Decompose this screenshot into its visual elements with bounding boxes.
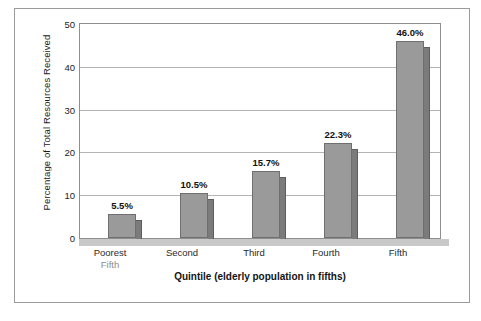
y-tick-label-20: 20 — [64, 147, 75, 158]
bar-side-fifth — [424, 47, 430, 244]
category-label-fifth: Fifth — [367, 247, 429, 258]
bar-face-second — [180, 193, 208, 238]
category-label-line1-fifth: Fifth — [389, 247, 407, 258]
y-tick-label-30: 30 — [64, 104, 75, 115]
gridline-40 — [80, 67, 440, 68]
bar-side-third — [280, 177, 286, 244]
category-label-line1-poorest: Poorest — [94, 247, 127, 258]
bar-value-fifth: 46.0% — [397, 27, 424, 38]
bar-value-poorest-fifth: 5.5% — [111, 200, 133, 211]
category-label-poorest-fifth: Poorest Fifth — [79, 247, 141, 270]
bar-side-second — [208, 199, 214, 244]
bar-value-second: 10.5% — [181, 179, 208, 190]
bar-side-fourth — [352, 149, 358, 244]
plot-area: 0 10 20 30 40 50 5.5% — [79, 23, 441, 239]
category-label-second: Second — [151, 247, 213, 258]
category-label-line1-second: Second — [166, 247, 198, 258]
bar-value-fourth: 22.3% — [325, 129, 352, 140]
category-label-line1-third: Third — [243, 247, 265, 258]
plot-floor-strip — [79, 239, 449, 246]
bar-face-poorest-fifth — [108, 214, 136, 238]
category-label-line2-poorest: Fifth — [79, 259, 141, 270]
figure-frame: Percentage of Total Resources Received 0… — [14, 8, 470, 303]
x-axis-title: Quintile (elderly population in fifths) — [79, 271, 441, 282]
bar-face-fourth — [324, 143, 352, 238]
y-axis-title: Percentage of Total Resources Received — [41, 8, 52, 238]
bar-face-third — [252, 171, 280, 238]
y-tick-label-40: 40 — [64, 61, 75, 72]
gridline-20 — [80, 152, 440, 153]
bar-value-third: 15.7% — [253, 157, 280, 168]
y-tick-label-0: 0 — [70, 233, 75, 244]
y-tick-label-10: 10 — [64, 190, 75, 201]
category-label-line1-fourth: Fourth — [312, 247, 339, 258]
y-tick-label-50: 50 — [64, 19, 75, 30]
gridline-30 — [80, 110, 440, 111]
category-label-third: Third — [223, 247, 285, 258]
bar-face-fifth — [396, 41, 424, 238]
category-label-fourth: Fourth — [295, 247, 357, 258]
chart-canvas: Percentage of Total Resources Received 0… — [15, 9, 471, 304]
